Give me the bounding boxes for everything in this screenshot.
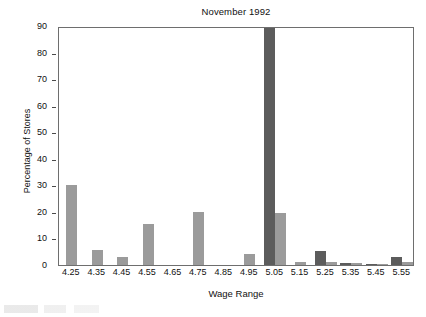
y-tick-mark: [52, 213, 56, 214]
bar-light-4.75: [193, 212, 204, 265]
y-tick-mark: [52, 80, 56, 81]
y-tick-label: 70: [5, 74, 47, 85]
bar-dark-5.25: [315, 251, 326, 265]
y-tick-label: 10: [5, 233, 47, 244]
bar-light-4.35: [92, 250, 103, 265]
bar-light-5.15: [295, 262, 306, 265]
y-tick-mark: [52, 186, 56, 187]
y-tick-label: 40: [5, 154, 47, 165]
bar-light-5.35: [351, 263, 362, 265]
bar-dark-5.35: [340, 263, 351, 265]
y-tick-mark: [52, 133, 56, 134]
bar-light-4.25: [66, 185, 77, 265]
x-tick-5.55: 5.55: [384, 267, 418, 278]
x-axis-label: Wage Range: [58, 288, 414, 299]
figure-caption-fragment: [4, 305, 204, 313]
y-tick-mark: [52, 54, 56, 55]
figure: November 1992 Percentage of Stores 01020…: [0, 0, 426, 317]
bar-light-5.25: [326, 262, 337, 265]
y-tick-label: 90: [5, 21, 47, 32]
y-tick-label: 30: [5, 180, 47, 191]
y-tick-label: 0: [5, 260, 47, 271]
y-tick-mark: [52, 107, 56, 108]
chart-title: November 1992: [58, 6, 414, 18]
y-tick-label: 60: [5, 101, 47, 112]
bar-light-5.55: [402, 262, 413, 265]
bar-light-5.45: [377, 264, 388, 265]
bar-light-4.45: [117, 257, 128, 265]
plot-area: [58, 27, 414, 266]
bar-light-4.95: [244, 254, 255, 265]
y-tick-label: 50: [5, 127, 47, 138]
y-tick-label: 20: [5, 207, 47, 218]
bar-dark-5.55: [391, 257, 402, 265]
y-tick-label: 80: [5, 48, 47, 59]
bar-dark-5.05: [264, 27, 275, 265]
y-tick-mark: [52, 239, 56, 240]
bar-dark-5.45: [366, 264, 377, 265]
bar-light-4.55: [143, 224, 154, 265]
y-tick-mark: [52, 160, 56, 161]
bar-light-5.05: [275, 213, 286, 265]
